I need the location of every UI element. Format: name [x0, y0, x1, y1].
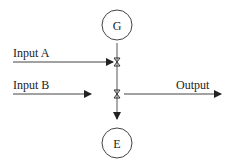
node-g: G — [102, 10, 132, 40]
output-label: Output — [176, 78, 210, 92]
node-e-label: E — [113, 137, 120, 151]
output: Output — [124, 78, 221, 94]
input-a-label: Input A — [13, 46, 50, 60]
node-e: E — [102, 128, 132, 158]
flow-diagram: G E Input A Input B Output — [0, 0, 234, 165]
diagram-canvas: G E Input A Input B Output — [0, 0, 234, 165]
input-b-label: Input B — [13, 78, 49, 92]
node-g-label: G — [113, 19, 122, 33]
input-b: Input B — [13, 78, 91, 94]
input-a: Input A — [13, 46, 113, 62]
